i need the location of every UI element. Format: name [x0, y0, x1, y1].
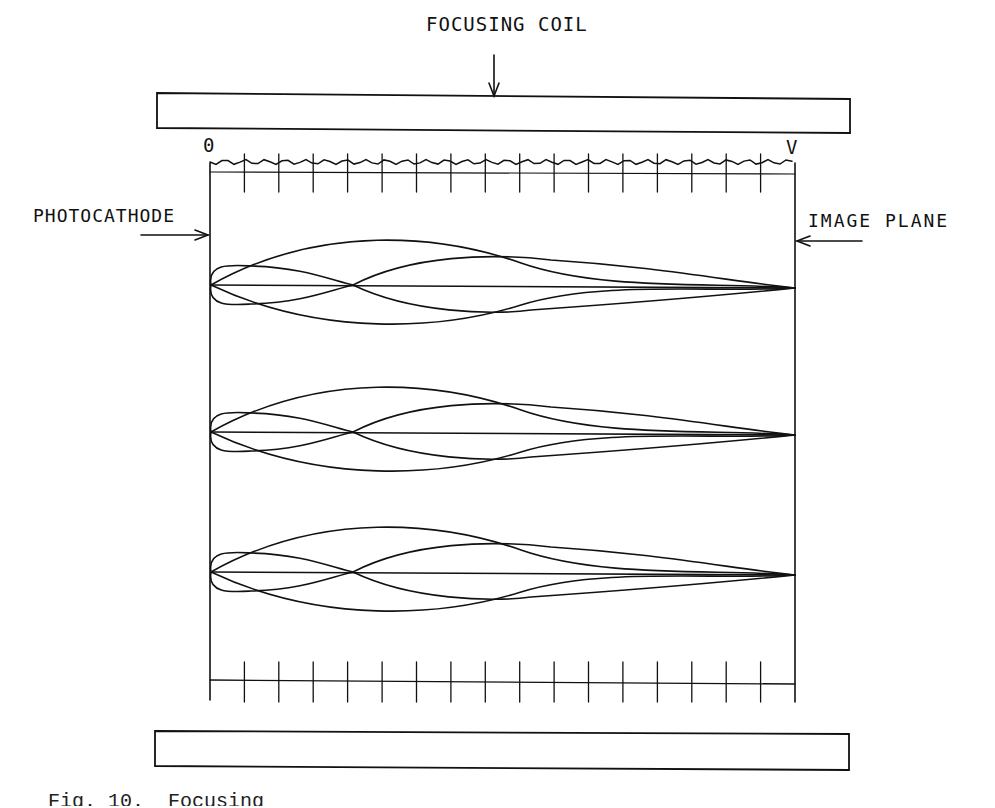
ray-bundle-1: [211, 240, 795, 324]
potential-v-label: V: [786, 136, 798, 158]
focusing-coil-arrow-icon: [489, 55, 499, 96]
photocathode-arrow-icon: [141, 230, 208, 240]
potential-zero-label: 0: [203, 134, 215, 156]
top-focusing-coil: [157, 93, 850, 133]
bottom-electrode-scale: [210, 662, 795, 702]
ray-bundle-3: [211, 527, 795, 611]
focusing-coil-label: FOCUSING COIL: [426, 13, 588, 35]
bottom-focusing-coil: [155, 731, 849, 770]
image-plane-label: IMAGE PLANE: [808, 210, 949, 231]
image-plane-arrow-icon: [797, 236, 862, 246]
electron-ray-bundles: [211, 240, 795, 611]
photocathode-label: PHOTOCATHODE: [33, 205, 175, 226]
diagram-canvas: [0, 0, 995, 808]
figure-caption: Fig. 10. Focusing: [48, 790, 264, 808]
ray-bundle-2: [211, 387, 795, 471]
top-electrode-scale: [210, 154, 795, 192]
focusing-diagram: FOCUSING COIL PHOTOCATHODE IMAGE PLANE 0…: [0, 0, 995, 808]
